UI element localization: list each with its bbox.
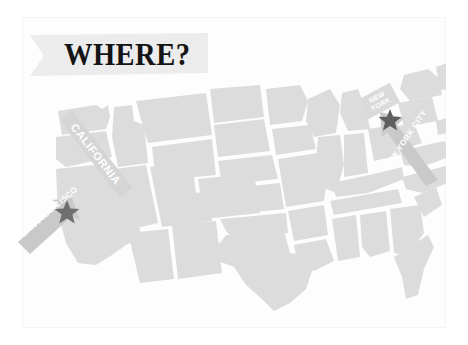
san-francisco-star-marker: [54, 199, 80, 225]
state-montana: [136, 93, 212, 143]
state-north-dakota: [210, 85, 264, 123]
slide-canvas: WHERE? CALIFORNIA SAN FRANCISCO NEW YORK…: [0, 0, 468, 345]
state-alabama: [360, 211, 390, 257]
new-york-city-star-marker: [378, 108, 402, 132]
state-indiana: [344, 133, 368, 177]
state-texas: [208, 231, 312, 311]
state-iowa: [272, 125, 316, 155]
state-new-york: [400, 69, 442, 101]
star-icon: [54, 199, 80, 225]
state-arkansas: [288, 205, 328, 241]
state-south-dakota: [214, 119, 270, 157]
title-banner: WHERE?: [30, 33, 208, 76]
state-mississippi: [332, 215, 360, 261]
state-minnesota: [266, 85, 308, 125]
page-title: WHERE?: [64, 36, 193, 76]
star-icon: [378, 108, 402, 132]
state-wisconsin: [306, 89, 340, 137]
state-colorado: [198, 173, 260, 219]
